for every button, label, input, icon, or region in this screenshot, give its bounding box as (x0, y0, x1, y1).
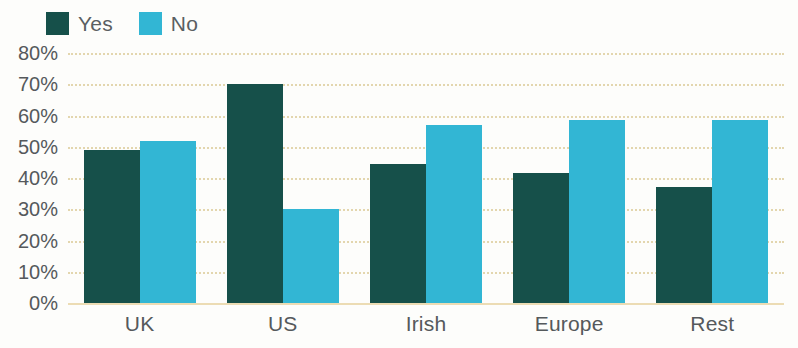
y-axis-tick-60pct: 60% (0, 104, 58, 127)
legend-label-yes: Yes (78, 13, 113, 34)
legend-label-no: No (171, 13, 198, 34)
bar-us-yes (227, 84, 283, 303)
legend-swatch-yes (46, 12, 69, 35)
bar-group-us (227, 53, 339, 303)
y-axis-tick-20pct: 20% (0, 229, 58, 252)
bar-uk-yes (84, 150, 140, 303)
plot-area (68, 53, 784, 303)
y-axis-tick-70pct: 70% (0, 73, 58, 96)
legend-swatch-no (139, 12, 162, 35)
chart-legend: YesNo (46, 8, 198, 38)
bar-irish-yes (370, 164, 426, 303)
gridline-0pct (68, 303, 784, 305)
bar-europe-yes (513, 173, 569, 303)
x-axis-tick-rest: Rest (656, 312, 768, 336)
grouped-bar-chart: YesNo 80%70%60%50%40%30%20%10%0% UKUSIri… (0, 0, 798, 348)
bar-rest-yes (656, 187, 712, 303)
bar-europe-no (569, 120, 625, 303)
x-axis-tick-europe: Europe (513, 312, 625, 336)
y-axis-tick-30pct: 30% (0, 198, 58, 221)
y-axis-tick-50pct: 50% (0, 135, 58, 158)
bar-groups (68, 53, 784, 303)
y-axis-tick-0pct: 0% (0, 292, 58, 315)
x-axis-tick-us: US (227, 312, 339, 336)
bar-irish-no (426, 125, 482, 303)
legend-entry-yes: Yes (46, 12, 113, 35)
bar-group-irish (370, 53, 482, 303)
x-axis-tick-uk: UK (84, 312, 196, 336)
bar-group-europe (513, 53, 625, 303)
x-axis-tick-irish: Irish (370, 312, 482, 336)
y-axis-tick-10pct: 10% (0, 260, 58, 283)
bar-rest-no (712, 120, 768, 303)
bar-us-no (283, 209, 339, 303)
y-axis-tick-80pct: 80% (0, 42, 58, 65)
bar-group-rest (656, 53, 768, 303)
y-axis-tick-40pct: 40% (0, 167, 58, 190)
x-axis: UKUSIrishEuropeRest (68, 312, 784, 346)
bar-group-uk (84, 53, 196, 303)
bar-uk-no (140, 141, 196, 304)
legend-entry-no: No (139, 12, 198, 35)
